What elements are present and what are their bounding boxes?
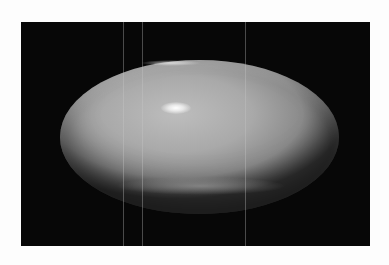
photo-frame — [21, 22, 370, 246]
scan-line-artifact — [245, 22, 246, 246]
specular-highlight — [161, 102, 191, 114]
scan-line-artifact — [142, 22, 143, 246]
top-edge-highlight — [141, 60, 201, 66]
scan-line-artifact — [123, 22, 124, 246]
